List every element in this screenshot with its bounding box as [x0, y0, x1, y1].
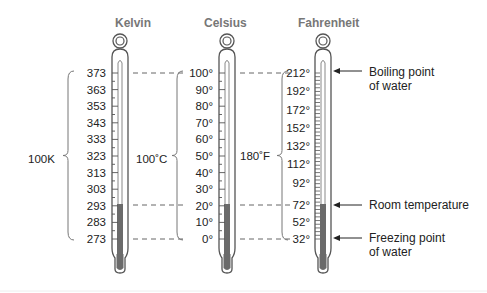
boiling-arrow-arrowhead-icon	[333, 68, 340, 74]
room-arrow-arrowhead-icon	[333, 202, 340, 208]
kelvin-tick-label: 303	[66, 183, 106, 195]
celsius-tick-label: 80°	[173, 100, 213, 112]
fahrenheit-tick-label: 52°	[270, 216, 310, 228]
kelvin-tick-label: 343	[66, 117, 106, 129]
fahrenheit-range-label: 180˚F	[240, 150, 270, 162]
celsius-tick-label: 10°	[173, 216, 213, 228]
kelvin-tick-label: 283	[66, 216, 106, 228]
fahrenheit-tick-label: 212°	[270, 67, 310, 79]
fahrenheit-tick-label: 152°	[270, 122, 310, 134]
celsius-mercury-column	[224, 204, 230, 256]
celsius-tick-label: 30°	[173, 183, 213, 195]
freezing-point-annotation: Freezing point of water	[369, 231, 445, 259]
celsius-title: Celsius	[204, 16, 247, 30]
celsius-range-label: 100˚C	[136, 153, 167, 165]
kelvin-tick-label: 363	[66, 84, 106, 96]
kelvin-tick-label: 273	[66, 233, 106, 245]
celsius-tick-label: 20°	[173, 200, 213, 212]
fahrenheit-tick-label: 112°	[270, 158, 310, 170]
celsius-tick-label: 90°	[173, 84, 213, 96]
kelvin-tick-label: 323	[66, 150, 106, 162]
celsius-tick-label: 50°	[173, 150, 213, 162]
kelvin-tick-label: 333	[66, 133, 106, 145]
boiling-point-annotation: Boiling point of water	[369, 65, 434, 93]
celsius-tick-label: 100°	[173, 67, 213, 79]
kelvin-bulb	[117, 254, 124, 270]
fahrenheit-tick-label: 92°	[270, 177, 310, 189]
celsius-tick-label: 60°	[173, 133, 213, 145]
kelvin-title: Kelvin	[115, 16, 151, 30]
kelvin-mercury-column	[117, 204, 123, 256]
kelvin-tick-label: 373	[66, 67, 106, 79]
fahrenheit-tick-label: 192°	[270, 85, 310, 97]
thermometer-diagram: Kelvin Celsius Fahrenheit 37336335334333…	[0, 0, 487, 293]
fahrenheit-bulb	[320, 254, 327, 270]
fahrenheit-title: Fahrenheit	[298, 16, 359, 30]
celsius-tick-label: 0°	[173, 233, 213, 245]
fahrenheit-tick-label: 72°	[270, 199, 310, 211]
kelvin-tick-label: 353	[66, 100, 106, 112]
freezing-arrow-arrowhead-icon	[333, 235, 340, 241]
fahrenheit-tick-label: 172°	[270, 104, 310, 116]
fahrenheit-tick-label: 32°	[270, 233, 310, 245]
fahrenheit-mercury-column	[320, 204, 326, 256]
kelvin-range-label: 100K	[28, 153, 55, 165]
celsius-bulb	[224, 254, 231, 270]
fahrenheit-tick-label: 132°	[270, 140, 310, 152]
room-temperature-annotation: Room temperature	[369, 198, 469, 212]
celsius-tick-label: 70°	[173, 117, 213, 129]
kelvin-tick-label: 293	[66, 200, 106, 212]
kelvin-tick-label: 313	[66, 167, 106, 179]
celsius-tick-label: 40°	[173, 167, 213, 179]
